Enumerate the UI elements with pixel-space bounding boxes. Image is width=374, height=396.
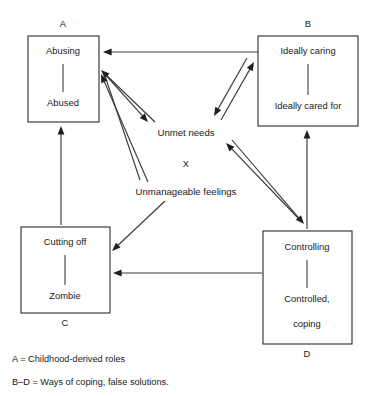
legend-legend-bd: B–D = Ways of coping, false solutions. xyxy=(12,377,169,387)
legend-legend-a: A = Childhood-derived roles xyxy=(12,354,126,364)
center-label-x-marker: X xyxy=(183,158,190,169)
node-letter-a: A xyxy=(60,18,67,29)
edge-a-unmet-out xyxy=(103,72,148,122)
edge-a-unmanage-in xyxy=(101,74,148,182)
center-labels-layer: Unmet needsXUnmanageable feelings xyxy=(136,127,237,197)
node-extra-label-d: coping xyxy=(293,318,321,329)
arrowhead-d-to-c xyxy=(113,270,122,277)
edge-line-b-unmet-out xyxy=(217,58,247,110)
node-bottom-label-c: Zombie xyxy=(49,290,80,301)
diagram-container: AbusingAbusedAIdeally caringIdeally care… xyxy=(0,0,374,396)
edge-line-a-unmet-out xyxy=(103,72,144,117)
arrowhead-c-to-a xyxy=(58,126,65,135)
psychology-cycle-diagram: AbusingAbusedAIdeally caringIdeally care… xyxy=(0,0,374,396)
node-bottom-label-d: Controlled, xyxy=(284,293,329,304)
edge-a-unmanage-out xyxy=(105,76,140,180)
edge-d-unmet-in xyxy=(232,140,304,224)
node-letter-d: D xyxy=(304,348,311,359)
node-box-b[interactable]: Ideally caringIdeally cared forB xyxy=(258,18,358,126)
edge-unmanage-to-c xyxy=(112,201,165,251)
node-bottom-label-b: Ideally cared for xyxy=(275,100,342,111)
edge-line-b-unmet-in xyxy=(221,68,251,120)
edge-line-d-unmet-out xyxy=(231,148,298,218)
edge-d-to-b xyxy=(304,130,311,229)
edge-line-unmanage-to-c xyxy=(117,201,165,247)
center-label-unmet-needs: Unmet needs xyxy=(157,127,214,138)
edge-line-a-unmanage-in xyxy=(104,80,148,182)
edge-d-unmet-out xyxy=(226,143,298,218)
node-top-label-b: Ideally caring xyxy=(280,45,335,56)
node-top-label-c: Cutting off xyxy=(44,236,87,247)
edge-c-to-a xyxy=(58,126,65,225)
node-box-d[interactable]: ControllingControlled,copingD xyxy=(263,231,352,359)
edge-line-d-unmet-in xyxy=(232,140,300,219)
center-label-unmanageable-feelings: Unmanageable feelings xyxy=(136,186,237,197)
node-letter-b: B xyxy=(305,18,311,29)
node-box-a[interactable]: AbusingAbusedA xyxy=(28,18,99,122)
edge-b-to-a xyxy=(103,49,258,56)
node-letter-c: C xyxy=(62,317,69,328)
arrowhead-b-unmet-out xyxy=(214,107,221,116)
arrowhead-b-to-a xyxy=(103,49,112,56)
arrowhead-b-unmet-in xyxy=(247,62,254,71)
edge-line-a-unmanage-out xyxy=(105,76,140,180)
node-bottom-label-a: Abused xyxy=(47,97,79,108)
edge-b-unmet-in xyxy=(221,62,254,120)
arrowhead-d-to-b xyxy=(304,130,311,139)
edge-b-unmet-out xyxy=(214,58,247,116)
node-top-label-a: Abusing xyxy=(46,45,80,56)
edge-a-unmet-in xyxy=(101,70,155,122)
legend-layer: A = Childhood-derived rolesB–D = Ways of… xyxy=(12,354,169,387)
node-box-c[interactable]: Cutting offZombieC xyxy=(21,227,110,328)
node-top-label-d: Controlling xyxy=(285,241,330,252)
edge-d-to-c xyxy=(113,270,262,277)
